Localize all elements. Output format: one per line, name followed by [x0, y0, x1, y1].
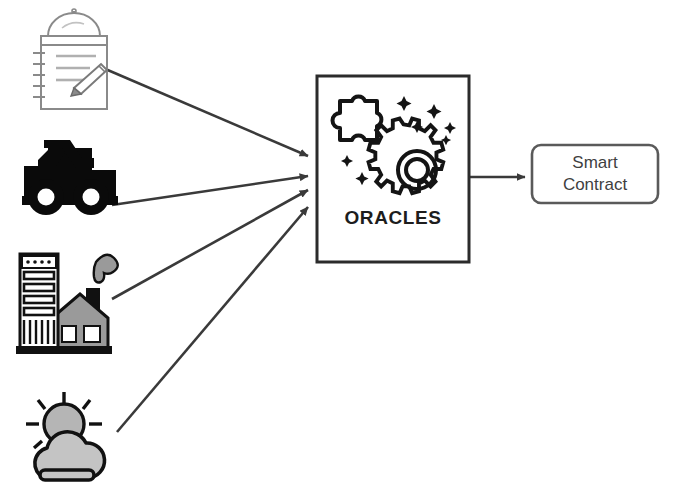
smart-contract-label: Smart Contract	[531, 152, 659, 196]
smart-contract-box	[0, 0, 678, 499]
smart-contract-label-line2: Contract	[531, 174, 659, 196]
smart-contract-label-line1: Smart	[531, 152, 659, 174]
diagram-canvas: ORACLES Smart Contract	[0, 0, 678, 499]
